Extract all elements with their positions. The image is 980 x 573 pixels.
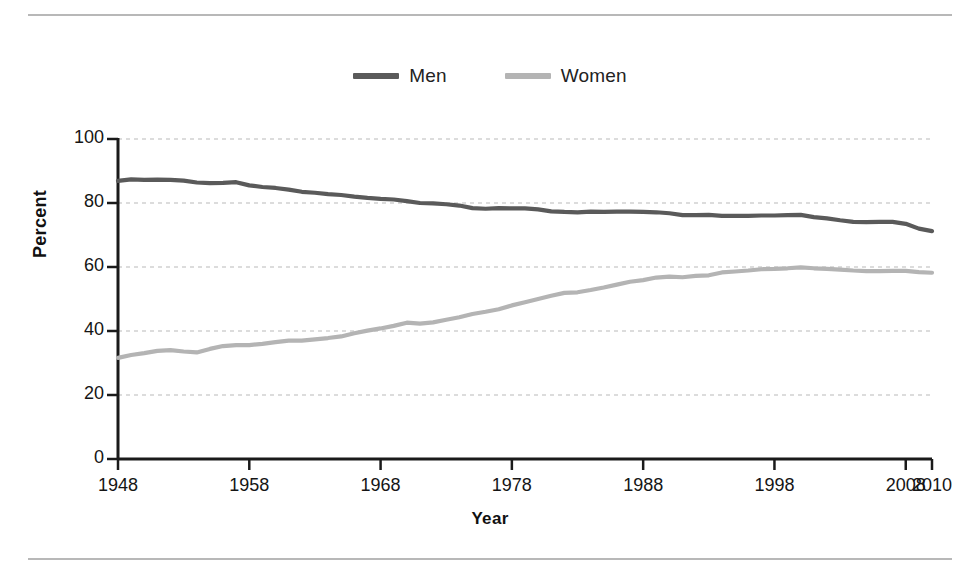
- y-axis-title: Percent: [30, 190, 51, 258]
- x-tick-label: 1958: [209, 475, 289, 496]
- y-tick-label: 80: [48, 191, 104, 212]
- x-tick-label: 1968: [341, 475, 421, 496]
- plot-area: 020406080100 194819581968197819881998200…: [0, 0, 980, 573]
- x-axis-title: Year: [0, 509, 980, 529]
- x-tick-label: 2010: [892, 475, 972, 496]
- x-tick-label: 1998: [734, 475, 814, 496]
- y-tick-label: 0: [48, 447, 104, 468]
- x-tick-label: 1988: [603, 475, 683, 496]
- axis-lines: [118, 138, 932, 459]
- figure-container: Men Women 020406080100 19481958196819781…: [0, 0, 980, 573]
- y-tick-label: 60: [48, 255, 104, 276]
- y-tick-label: 100: [48, 127, 104, 148]
- x-tick-label: 1978: [472, 475, 552, 496]
- x-tick-label: 1948: [78, 475, 158, 496]
- y-tick-label: 20: [48, 383, 104, 404]
- y-tick-label: 40: [48, 319, 104, 340]
